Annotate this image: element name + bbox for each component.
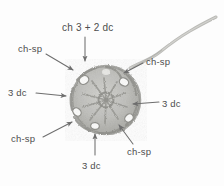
crochet-diagram-page: ch 3 + 2 dc ch-sp ch-sp 3 dc 3 dc ch-sp …: [0, 0, 224, 186]
arrow-lower-left: [43, 122, 72, 137]
annotation-label-upper-left: ch-sp: [18, 44, 42, 54]
arrow-left: [36, 93, 66, 96]
annotation-label-bottom-center: 3 dc: [82, 161, 101, 171]
annotation-label-lower-left: ch-sp: [11, 134, 35, 144]
annotation-label-right: 3 dc: [162, 99, 181, 109]
annotation-label-upper-right: ch-sp: [146, 57, 170, 67]
arrow-upper-left: [46, 54, 73, 70]
yarn-tail: [130, 17, 216, 68]
annotation-label-lower-right: ch-sp: [127, 147, 151, 157]
annotation-label-top-center: ch 3 + 2 dc: [62, 23, 113, 33]
annotation-label-left: 3 dc: [8, 88, 27, 98]
crochet-motif: [71, 66, 140, 134]
